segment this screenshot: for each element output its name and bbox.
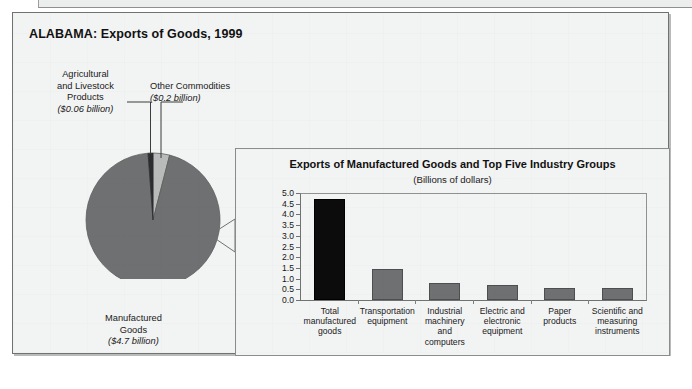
pie-label-other-value: ($0.2 billion) bbox=[150, 93, 230, 105]
pie-label-manufactured-line1: Manufactured bbox=[105, 313, 162, 325]
pie-leader-lines bbox=[127, 102, 183, 158]
bar-slot bbox=[301, 193, 359, 300]
pie-label-manufactured-value: ($4.7 billion) bbox=[105, 336, 162, 348]
y-tick-label: 5.0 bbox=[282, 189, 294, 198]
bar-series bbox=[301, 193, 646, 300]
pie-label-other-line1: Other Commodities bbox=[150, 81, 230, 93]
y-tick-label: 3.0 bbox=[282, 232, 294, 241]
pie-label-other-commodities: Other Commodities ($0.2 billion) bbox=[150, 81, 230, 104]
bar-chart-title: Exports of Manufactured Goods and Top Fi… bbox=[236, 158, 669, 170]
y-tick-label: 0.5 bbox=[282, 285, 294, 294]
x-tick-mark bbox=[532, 300, 590, 304]
y-tick-label: 4.5 bbox=[282, 200, 294, 209]
bar-chart-panel: Exports of Manufactured Goods and Top Fi… bbox=[235, 148, 670, 356]
pie-chart-area: Agricultural and Livestock Products ($0.… bbox=[13, 13, 273, 355]
bar-slot bbox=[359, 193, 417, 300]
y-tick-label: 0.0 bbox=[282, 296, 294, 305]
pie-label-agricultural-value: ($0.06 billion) bbox=[57, 104, 114, 116]
x-axis-label-1: Totalmanufacturedgoods bbox=[301, 306, 359, 347]
bar-chart-plot: 5.04.54.03.53.02.52.01.51.00.50.0 Totalm… bbox=[236, 193, 671, 357]
figure-frame: ALABAMA: Exports of Goods, 1999 A bbox=[12, 12, 669, 354]
x-axis-label-3: Industrialmachinery andcomputers bbox=[416, 306, 474, 347]
bar-6 bbox=[602, 288, 633, 300]
x-tick-mark bbox=[416, 300, 474, 304]
x-axis-label-6: Scientific andmeasuringinstruments bbox=[589, 306, 647, 347]
pie-label-agricultural-line3: Products bbox=[57, 92, 114, 104]
page-top-strip bbox=[38, 0, 692, 8]
bar-slot bbox=[416, 193, 474, 300]
x-tick-mark bbox=[589, 300, 646, 304]
bar-2 bbox=[372, 269, 403, 300]
pie-label-manufactured-line2: Goods bbox=[105, 325, 162, 337]
bar-slot bbox=[531, 193, 589, 300]
pie-label-manufactured-goods: Manufactured Goods ($4.7 billion) bbox=[105, 313, 162, 348]
bar-4 bbox=[487, 285, 518, 300]
x-tick-mark bbox=[474, 300, 532, 304]
x-tick-mark bbox=[301, 300, 359, 304]
y-tick-label: 2.0 bbox=[282, 253, 294, 262]
y-axis: 5.04.54.03.53.02.52.01.51.00.50.0 bbox=[270, 193, 300, 301]
bar-slot bbox=[589, 193, 647, 300]
pie-label-agricultural: Agricultural and Livestock Products ($0.… bbox=[57, 69, 114, 115]
y-tick-label: 4.0 bbox=[282, 210, 294, 219]
y-tick-label: 2.5 bbox=[282, 243, 294, 252]
x-tick-mark bbox=[359, 300, 417, 304]
x-axis-ticks bbox=[301, 300, 646, 304]
bar-chart-subtitle: (Billions of dollars) bbox=[236, 174, 669, 185]
y-tick-label: 3.5 bbox=[282, 221, 294, 230]
pie-label-agricultural-line2: and Livestock bbox=[57, 81, 114, 93]
pie-label-agricultural-line1: Agricultural bbox=[57, 69, 114, 81]
y-tick-label: 1.5 bbox=[282, 264, 294, 273]
bar-1 bbox=[314, 199, 345, 300]
bar-5 bbox=[544, 288, 575, 300]
bar-slot bbox=[474, 193, 532, 300]
x-axis-label-2: Transportationequipment bbox=[359, 306, 417, 347]
x-axis-labels: TotalmanufacturedgoodsTransportationequi… bbox=[301, 306, 646, 347]
y-tick-label: 1.0 bbox=[282, 275, 294, 284]
bar-3 bbox=[429, 283, 460, 300]
x-axis-label-5: Paperproducts bbox=[531, 306, 589, 347]
x-axis-label-4: Electric andelectronicequipment bbox=[474, 306, 532, 347]
